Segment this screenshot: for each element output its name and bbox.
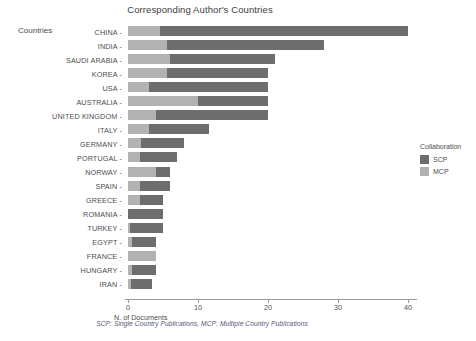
y-tick-label: PORTUGAL - bbox=[0, 154, 122, 163]
y-tick-label: HUNGARY - bbox=[0, 266, 122, 275]
legend-swatch-icon bbox=[420, 167, 429, 176]
bar-segment-mcp bbox=[128, 195, 140, 205]
y-tick-label: INDIA - bbox=[0, 42, 122, 51]
x-tick-label: 40 bbox=[404, 303, 412, 312]
bar-segment-scp bbox=[130, 223, 163, 233]
y-tick-label: GREECE - bbox=[0, 196, 122, 205]
bar-segment-mcp bbox=[128, 40, 167, 50]
x-tick-label: 20 bbox=[264, 303, 272, 312]
y-tick-label: EGYPT - bbox=[0, 238, 122, 247]
bar-segment-scp bbox=[156, 110, 268, 120]
bar-segment-mcp bbox=[128, 181, 140, 191]
legend-label: MCP bbox=[433, 168, 449, 175]
bar-segment-mcp bbox=[128, 110, 156, 120]
chart-title: Corresponding Author's Countries bbox=[0, 4, 400, 15]
x-tick-label: 30 bbox=[334, 303, 342, 312]
legend-item[interactable]: MCP bbox=[420, 167, 461, 176]
legend-swatch-icon bbox=[420, 155, 429, 164]
bar-segment-mcp bbox=[128, 26, 160, 36]
bar-segment-mcp bbox=[128, 68, 167, 78]
bar-segment-mcp bbox=[128, 152, 140, 162]
legend-items: SCPMCP bbox=[420, 155, 461, 176]
bar-segment-scp bbox=[167, 68, 269, 78]
legend-item[interactable]: SCP bbox=[420, 155, 461, 164]
plot-area bbox=[128, 24, 415, 298]
bar-segment-scp bbox=[198, 96, 268, 106]
bar-segment-scp bbox=[132, 237, 156, 247]
bar-segment-mcp bbox=[128, 251, 156, 261]
legend: Collaboration SCPMCP bbox=[420, 143, 461, 179]
bar-segment-scp bbox=[132, 265, 157, 275]
x-tick-label: 10 bbox=[194, 303, 202, 312]
bar-segment-scp bbox=[160, 26, 408, 36]
bar-segment-scp bbox=[140, 195, 163, 205]
bar-segment-mcp bbox=[128, 96, 198, 106]
y-tick-label: SAUDI ARABIA - bbox=[0, 56, 122, 65]
y-tick-label: GERMANY - bbox=[0, 140, 122, 149]
bar-segment-scp bbox=[140, 152, 177, 162]
bar-segment-scp bbox=[170, 54, 275, 64]
bar-segment-scp bbox=[131, 279, 153, 289]
y-tick-label: NORWAY - bbox=[0, 168, 122, 177]
y-tick-label: USA - bbox=[0, 84, 122, 93]
x-tick-label: 0 bbox=[126, 303, 130, 312]
chart-container: Corresponding Author's Countries Countri… bbox=[0, 0, 476, 341]
chart-caption: SCP: Single Country Publications, MCP: M… bbox=[0, 320, 404, 327]
y-tick-label: ROMANIA - bbox=[0, 210, 122, 219]
bar-segment-mcp bbox=[128, 54, 170, 64]
legend-title: Collaboration bbox=[420, 143, 461, 150]
y-axis-tick-labels: CHINA -INDIA -SAUDI ARABIA -KOREA -USA -… bbox=[0, 24, 122, 298]
bar-segment-scp bbox=[149, 82, 268, 92]
bar-segment-scp bbox=[141, 138, 184, 148]
bar-segment-scp bbox=[128, 209, 163, 219]
y-tick-label: KOREA - bbox=[0, 70, 122, 79]
y-tick-label: IRAN - bbox=[0, 280, 122, 289]
bar-segment-mcp bbox=[128, 82, 149, 92]
bar-segment-scp bbox=[156, 167, 170, 177]
y-tick-label: TURKEY - bbox=[0, 224, 122, 233]
bar-segment-scp bbox=[149, 124, 209, 134]
bar-segment-mcp bbox=[128, 167, 156, 177]
y-tick-label: CHINA - bbox=[0, 28, 122, 37]
bar-segment-scp bbox=[140, 181, 170, 191]
y-tick-label: SPAIN - bbox=[0, 182, 122, 191]
y-tick-label: ITALY - bbox=[0, 126, 122, 135]
x-axis-line bbox=[125, 299, 417, 300]
y-tick-label: AUSTRALIA - bbox=[0, 98, 122, 107]
legend-label: SCP bbox=[433, 156, 447, 163]
bar-segment-scp bbox=[167, 40, 325, 50]
y-tick-label: UNITED KINGDOM - bbox=[0, 112, 122, 121]
bar-segment-mcp bbox=[128, 138, 141, 148]
y-tick-label: FRANCE - bbox=[0, 252, 122, 261]
bar-segment-mcp bbox=[128, 124, 149, 134]
